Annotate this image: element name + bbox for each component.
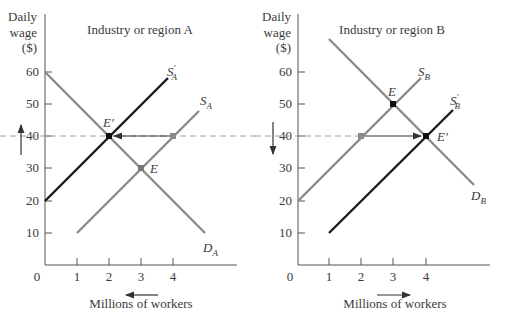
shifted-supply-curve-b	[329, 110, 453, 233]
supply-curve-b	[298, 78, 421, 201]
origin-label: 0	[287, 269, 294, 284]
x-tick-label: 2	[358, 269, 365, 284]
y-ticks	[45, 72, 52, 233]
y-ticks	[298, 72, 305, 233]
x-tick-label: 1	[74, 269, 81, 284]
new-equilibrium-marker	[106, 133, 112, 139]
old-point-marker	[358, 133, 364, 139]
curve-label-s-prime-a: S′A	[167, 63, 177, 82]
y-tick-label: 50	[26, 96, 39, 111]
curve-label-d-a: DA	[202, 240, 218, 258]
y-axis-label-line2: wage	[10, 25, 38, 40]
panel-b: Daily wage ($) Industry or region B 10 2…	[255, 9, 490, 311]
x-tick-label: 4	[170, 269, 177, 284]
y-axis-label-line3: ($)	[22, 40, 37, 55]
y-tick-label: 10	[279, 225, 292, 240]
old-point-marker	[170, 133, 176, 139]
equilibrium-label-e: E	[387, 84, 396, 99]
equilibrium-label-e-prime: E′	[102, 115, 114, 130]
x-tick-label: 3	[390, 269, 397, 284]
supply-curve-a	[77, 111, 199, 233]
shifted-supply-curve-a	[45, 78, 168, 201]
equilibrium-marker	[390, 101, 396, 107]
y-axis-label-line2: wage	[264, 25, 292, 40]
panel-title: Industry or region B	[339, 22, 445, 37]
equilibrium-label-e-prime: E′	[436, 129, 448, 144]
panel-title: Industry or region A	[87, 22, 193, 37]
y-axis-label-line1: Daily	[262, 9, 291, 24]
new-equilibrium-marker	[423, 133, 429, 139]
x-tick-label: 3	[138, 269, 145, 284]
y-tick-label: 30	[279, 160, 292, 175]
equilibrium-marker	[138, 165, 144, 171]
curve-label-d-b: DB	[470, 188, 486, 206]
y-axis-label-line1: Daily	[8, 9, 37, 24]
origin-label: 0	[34, 269, 41, 284]
y-axis-label-line3: ($)	[276, 40, 291, 55]
x-axis-label: Millions of workers	[89, 296, 192, 311]
y-tick-label: 30	[26, 160, 39, 175]
panel-a: Daily wage ($) Industry or region A 10 2…	[0, 9, 260, 311]
equilibrium-label-e: E	[149, 161, 158, 176]
x-tick-label: 1	[326, 269, 333, 284]
y-tick-label: 60	[26, 64, 39, 79]
demand-curve-a	[45, 72, 205, 233]
curve-label-s-a: SA	[200, 93, 213, 111]
x-tick-label: 4	[423, 269, 430, 284]
x-ticks	[77, 258, 173, 265]
x-tick-label: 2	[106, 269, 113, 284]
y-tick-label: 50	[279, 96, 292, 111]
y-tick-label: 20	[279, 193, 292, 208]
labor-market-chart: Daily wage ($) Industry or region A 10 2…	[0, 0, 505, 320]
curve-label-s-prime-b: S′B	[450, 92, 460, 111]
x-axis-label: Millions of workers	[343, 296, 446, 311]
y-tick-label: 60	[279, 64, 292, 79]
y-tick-label: 10	[26, 225, 39, 240]
y-tick-label: 20	[26, 193, 39, 208]
x-ticks	[329, 258, 426, 265]
